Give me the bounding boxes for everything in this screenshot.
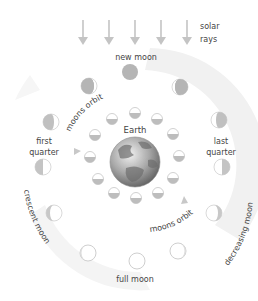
moons-orbit-label-bottom: moons orbit xyxy=(149,208,195,234)
moon-last-quarter-lower xyxy=(214,159,230,175)
full-moon-label: full moon xyxy=(116,275,154,284)
moon-full xyxy=(129,253,145,269)
last-quarter-label-2: quarter xyxy=(206,148,236,157)
earth-globe-icon xyxy=(110,137,160,187)
moon-upper-right xyxy=(172,79,188,95)
orbit-arrow-icon xyxy=(74,148,81,155)
moon-last-quarter-upper xyxy=(211,112,227,128)
moons-orbit-label-top: moons orbit xyxy=(64,92,104,133)
moon-new xyxy=(122,64,138,80)
moon-upper-left xyxy=(81,78,97,94)
last-quarter-label: last xyxy=(214,137,228,146)
moon-decreasing xyxy=(206,205,222,221)
solar-rays-label-2: rays xyxy=(200,35,217,44)
solar-rays xyxy=(78,20,192,45)
moon-crescent xyxy=(46,205,62,221)
moon-first-quarter-lower xyxy=(35,159,51,175)
arrow-down-icon xyxy=(78,20,192,45)
first-quarter-label-2: quarter xyxy=(29,148,59,157)
first-quarter-label: first xyxy=(36,137,52,146)
moon-lower-right xyxy=(170,243,186,259)
new-moon-label: new moon xyxy=(115,53,157,62)
moon-first-quarter-upper xyxy=(43,114,59,130)
orbit-arrow-icon xyxy=(181,196,188,204)
moon-lower-left xyxy=(80,245,96,261)
moon-phases-diagram: solar rays new moon first quarter last q… xyxy=(0,0,258,301)
earth-label: Earth xyxy=(124,125,147,135)
solar-rays-label: solar xyxy=(200,22,220,31)
